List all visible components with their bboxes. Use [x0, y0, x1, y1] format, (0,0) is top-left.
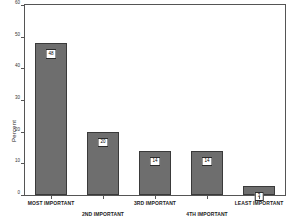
- x-axis-tick: [207, 196, 208, 199]
- x-axis-category-label: 3RD IMPORTANT: [134, 200, 176, 206]
- plot-area: 482014143: [25, 5, 285, 195]
- y-tick-label: 50: [15, 33, 20, 38]
- bar: 14: [191, 151, 223, 195]
- y-axis-tick: 0: [0, 195, 24, 196]
- x-axis-tick: [259, 196, 260, 199]
- bar: 3: [243, 186, 275, 196]
- y-axis-tick: 30: [0, 100, 24, 101]
- bar-value-label: 14: [201, 157, 212, 167]
- x-axis-category-label: LEAST IMPORTANT: [235, 200, 284, 206]
- x-axis-category-label: 2ND IMPORTANT: [82, 211, 124, 217]
- y-tick-label: 20: [15, 128, 20, 133]
- x-axis-category-label: 4TH IMPORTANT: [186, 211, 227, 217]
- y-axis-tick: 40: [0, 68, 24, 69]
- y-tick-label: 0: [17, 191, 20, 196]
- y-tick-label: 10: [15, 159, 20, 164]
- y-tick-label: 30: [15, 96, 20, 101]
- bar: 48: [35, 43, 67, 195]
- x-axis-category-label: MOST IMPORTANT: [28, 200, 75, 206]
- y-tick-label: 40: [15, 64, 20, 69]
- bar-chart: Percent 0102030405060 482014143 MOST IMP…: [0, 0, 291, 222]
- x-axis-tick: [103, 196, 104, 199]
- bar: 14: [139, 151, 171, 195]
- y-axis-tick: 50: [0, 37, 24, 38]
- x-axis-tick: [155, 196, 156, 199]
- bar-value-label: 14: [149, 157, 160, 167]
- x-axis-tick: [51, 196, 52, 199]
- y-axis-tick: 10: [0, 163, 24, 164]
- y-tick-label: 60: [15, 1, 20, 6]
- bar: 20: [87, 132, 119, 195]
- y-axis-tick: 20: [0, 132, 24, 133]
- bar-value-label: 48: [45, 49, 56, 59]
- y-axis-tick: 60: [0, 5, 24, 6]
- bar-value-label: 20: [97, 138, 108, 148]
